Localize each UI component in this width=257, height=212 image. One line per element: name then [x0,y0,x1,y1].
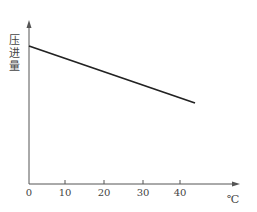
x-tick-label: 10 [59,187,72,198]
y-axis-label: 压 进 量 [7,34,21,73]
x-tick-label: 20 [98,187,111,198]
x-tick-label: 40 [174,187,187,198]
x-ticks [65,180,180,184]
y-label-char: 压 [7,34,21,47]
y-label-char: 量 [7,60,21,73]
y-label-char: 进 [7,47,21,60]
x-tick-label: 0 [26,187,32,198]
y-axis-arrow-icon [27,20,32,28]
x-axis-unit-label: ℃ [227,193,239,206]
chart-canvas [0,0,257,212]
x-axis-arrow-icon [232,182,240,187]
x-tick-label: 30 [137,187,150,198]
data-line [29,46,195,103]
